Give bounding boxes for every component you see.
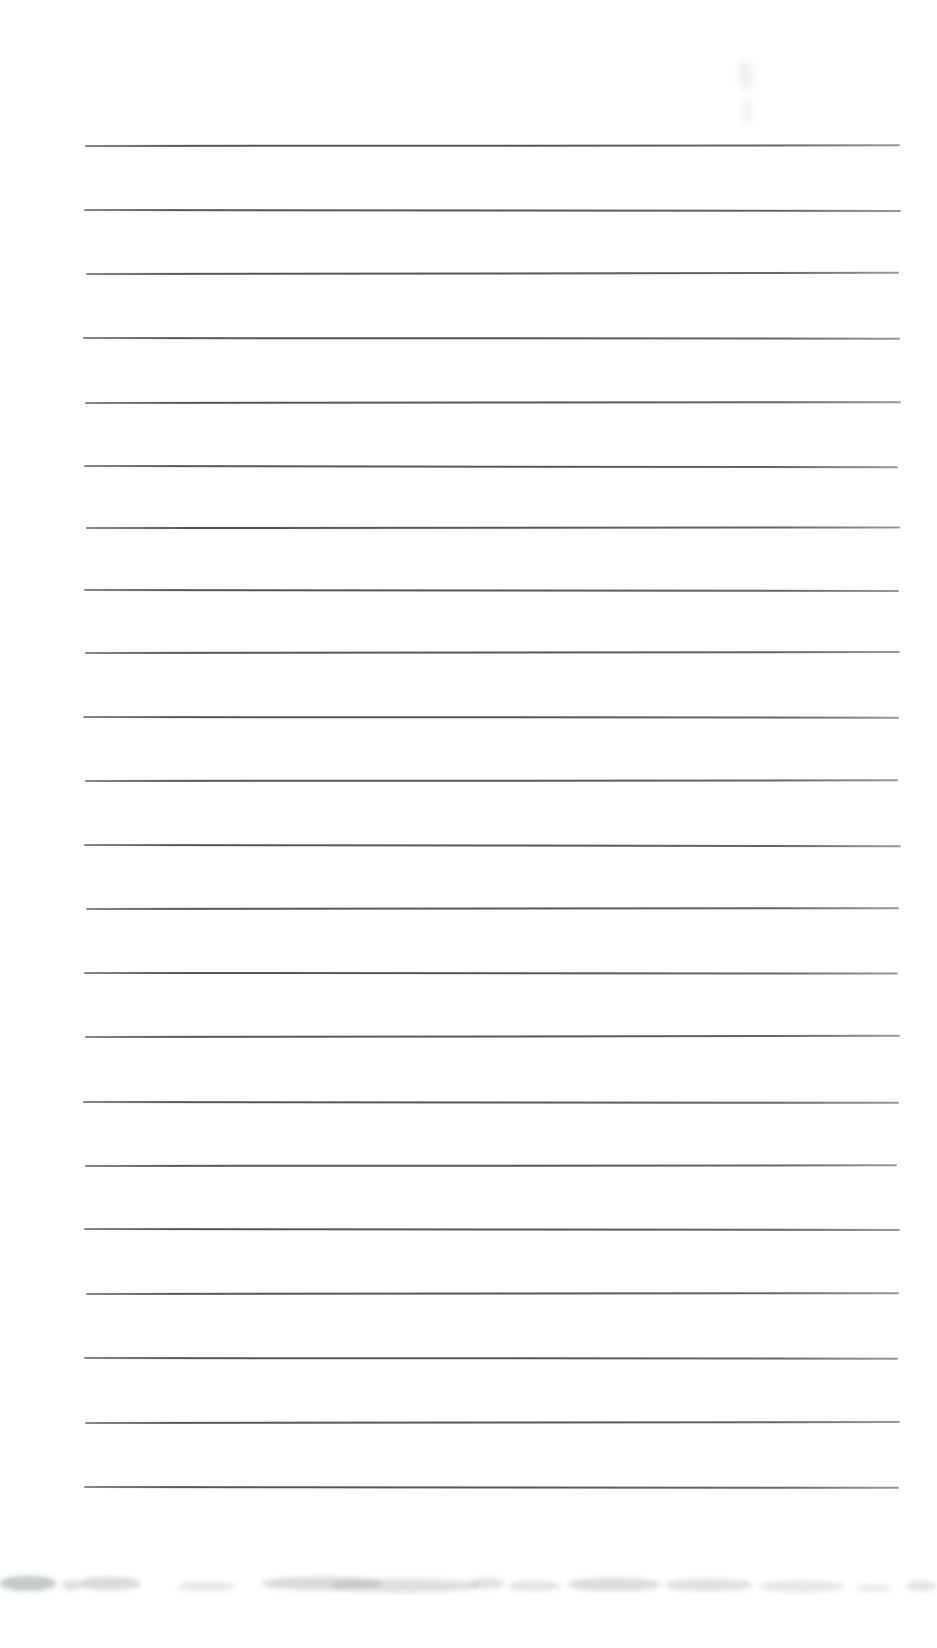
ghost-mark <box>741 98 753 124</box>
ghost-marks-layer <box>0 0 937 1648</box>
ghost-mark <box>738 60 754 90</box>
scanned-notebook-page <box>0 0 937 1648</box>
